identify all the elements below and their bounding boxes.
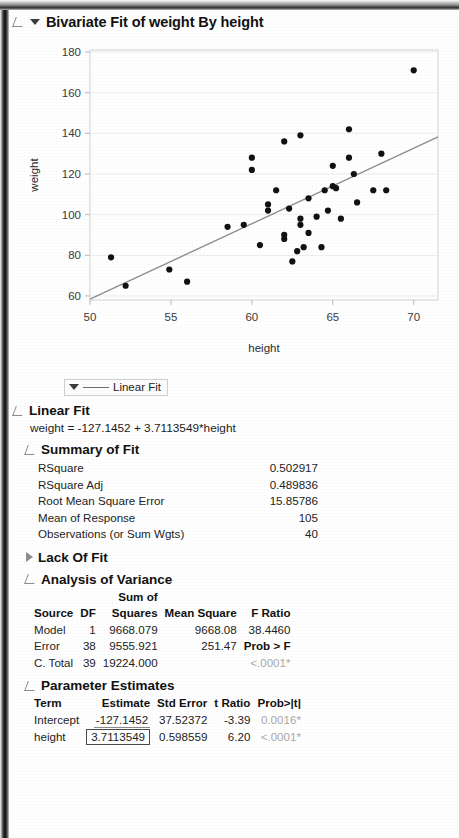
x-tick-label: 70 xyxy=(407,311,420,323)
parameter-t-ratio: 6.20 xyxy=(214,729,257,746)
triangle-open-icon[interactable] xyxy=(12,17,26,27)
triangle-closed-icon[interactable] xyxy=(26,552,33,562)
data-point[interactable] xyxy=(289,258,295,264)
data-point[interactable] xyxy=(166,266,172,272)
data-point[interactable] xyxy=(249,155,255,161)
data-point[interactable] xyxy=(265,201,271,207)
data-point[interactable] xyxy=(297,222,303,228)
data-point[interactable] xyxy=(301,244,307,250)
lack-of-fit-section-header[interactable]: Lack Of Fit xyxy=(26,550,456,565)
data-point[interactable] xyxy=(286,205,292,211)
anova-row: Model19668.0799668.0838.4460 xyxy=(34,622,297,639)
anova-mean-square: 9668.08 xyxy=(165,622,244,639)
data-point[interactable] xyxy=(273,187,279,193)
triangle-open-icon[interactable] xyxy=(24,445,38,455)
chevron-down-icon[interactable] xyxy=(69,384,79,390)
scan-top-edge xyxy=(0,0,459,10)
parameter-estimates-section-header[interactable]: Parameter Estimates xyxy=(26,678,456,693)
data-point[interactable] xyxy=(351,171,357,177)
summary-of-fit-label: Observations (or Sum Wgts) xyxy=(38,526,226,543)
parameter-estimates-column-header: Std Error xyxy=(157,695,214,712)
linear-fit-heading: Linear Fit xyxy=(29,403,90,418)
anova-column-header: Source xyxy=(34,605,80,622)
data-point[interactable] xyxy=(411,67,417,73)
summary-of-fit-value: 0.489836 xyxy=(226,477,318,494)
data-point[interactable] xyxy=(314,214,320,220)
data-point[interactable] xyxy=(249,167,255,173)
data-point[interactable] xyxy=(333,185,339,191)
summary-of-fit-row: Root Mean Square Error15.85786 xyxy=(38,493,318,510)
data-point[interactable] xyxy=(322,187,328,193)
anova-column-header: DF xyxy=(80,605,102,622)
summary-of-fit-value: 0.502917 xyxy=(226,460,318,477)
parameter-prob: <.0001* xyxy=(257,729,308,746)
data-point[interactable] xyxy=(297,216,303,222)
report-title-bar: Bivariate Fit of weight By height xyxy=(12,12,456,32)
x-tick-label: 50 xyxy=(84,311,97,323)
parameter-t-ratio: -3.39 xyxy=(214,712,257,729)
data-point[interactable] xyxy=(370,187,376,193)
anova-sum-of-squares: 9668.079 xyxy=(103,622,165,639)
triangle-open-icon[interactable] xyxy=(24,574,38,584)
data-point[interactable] xyxy=(224,224,230,230)
y-tick-label: 140 xyxy=(62,127,81,139)
data-point[interactable] xyxy=(281,138,287,144)
anova-mean-square: 251.47 xyxy=(165,638,244,655)
summary-of-fit-heading: Summary of Fit xyxy=(41,442,139,457)
summary-of-fit-section-header[interactable]: Summary of Fit xyxy=(26,442,456,457)
scatter-plot-svg[interactable]: 6080100120140160180 5055606570 weight he… xyxy=(12,36,456,376)
data-point[interactable] xyxy=(241,222,247,228)
analysis-of-variance-table: Sum of SourceDFSquaresMean SquareF Ratio… xyxy=(34,589,297,672)
anova-sum-of-header: Sum of xyxy=(103,589,165,606)
parameter-estimate[interactable]: -127.1452 xyxy=(86,712,157,729)
lack-of-fit-heading: Lack Of Fit xyxy=(38,550,108,565)
parameter-estimate[interactable]: 3.7113549 xyxy=(86,729,157,746)
y-tick-label: 160 xyxy=(62,87,81,99)
analysis-of-variance-section-header[interactable]: Analysis of Variance xyxy=(26,572,456,587)
parameter-estimates-heading: Parameter Estimates xyxy=(41,678,175,693)
summary-of-fit-label: RSquare xyxy=(38,460,226,477)
data-point[interactable] xyxy=(297,132,303,138)
y-axis-label: weight xyxy=(28,158,40,193)
data-point[interactable] xyxy=(305,230,311,236)
data-point[interactable] xyxy=(184,279,190,285)
triangle-open-icon[interactable] xyxy=(24,681,38,691)
data-point[interactable] xyxy=(378,151,384,157)
data-point[interactable] xyxy=(346,155,352,161)
data-point[interactable] xyxy=(281,236,287,242)
data-point[interactable] xyxy=(305,195,311,201)
summary-of-fit-value: 15.85786 xyxy=(226,493,318,510)
data-point[interactable] xyxy=(294,248,300,254)
data-point[interactable] xyxy=(123,283,129,289)
data-point[interactable] xyxy=(108,254,114,260)
linear-fit-section-header[interactable]: Linear Fit xyxy=(14,403,456,418)
plot-frame xyxy=(90,50,438,300)
data-point[interactable] xyxy=(354,199,360,205)
estimate-cell[interactable]: -127.1452 xyxy=(94,713,150,728)
data-point[interactable] xyxy=(338,216,344,222)
scanned-page: Bivariate Fit of weight By height 608010… xyxy=(0,0,459,838)
parameter-estimates-row: height3.71135490.5985596.20<.0001* xyxy=(34,729,308,746)
data-point[interactable] xyxy=(318,244,324,250)
linear-fit-legend[interactable]: Linear Fit xyxy=(64,379,168,396)
summary-of-fit-table: RSquare0.502917RSquare Adj0.489836Root M… xyxy=(38,460,318,543)
parameter-estimates-column-header: Prob>|t| xyxy=(257,695,308,712)
data-point[interactable] xyxy=(330,163,336,169)
data-point[interactable] xyxy=(257,242,263,248)
summary-of-fit-label: Mean of Response xyxy=(38,510,226,527)
chevron-down-icon[interactable] xyxy=(30,19,40,25)
selected-estimate-cell[interactable]: 3.7113549 xyxy=(86,729,150,745)
anova-df: 38 xyxy=(80,638,102,655)
parameter-std-error: 37.52372 xyxy=(157,712,214,729)
bivariate-scatter-plot[interactable]: 6080100120140160180 5055606570 weight he… xyxy=(12,36,456,376)
data-point[interactable] xyxy=(265,207,271,213)
data-point[interactable] xyxy=(346,126,352,132)
anova-row: C. Total3919224.000<.0001* xyxy=(34,655,297,672)
summary-of-fit-row: Observations (or Sum Wgts)40 xyxy=(38,526,318,543)
data-point[interactable] xyxy=(325,207,331,213)
parameter-estimates-column-header: Estimate xyxy=(86,695,157,712)
triangle-open-icon[interactable] xyxy=(12,406,26,416)
parameter-term: height xyxy=(34,729,86,746)
parameter-term: Intercept xyxy=(34,712,86,729)
data-point[interactable] xyxy=(383,187,389,193)
